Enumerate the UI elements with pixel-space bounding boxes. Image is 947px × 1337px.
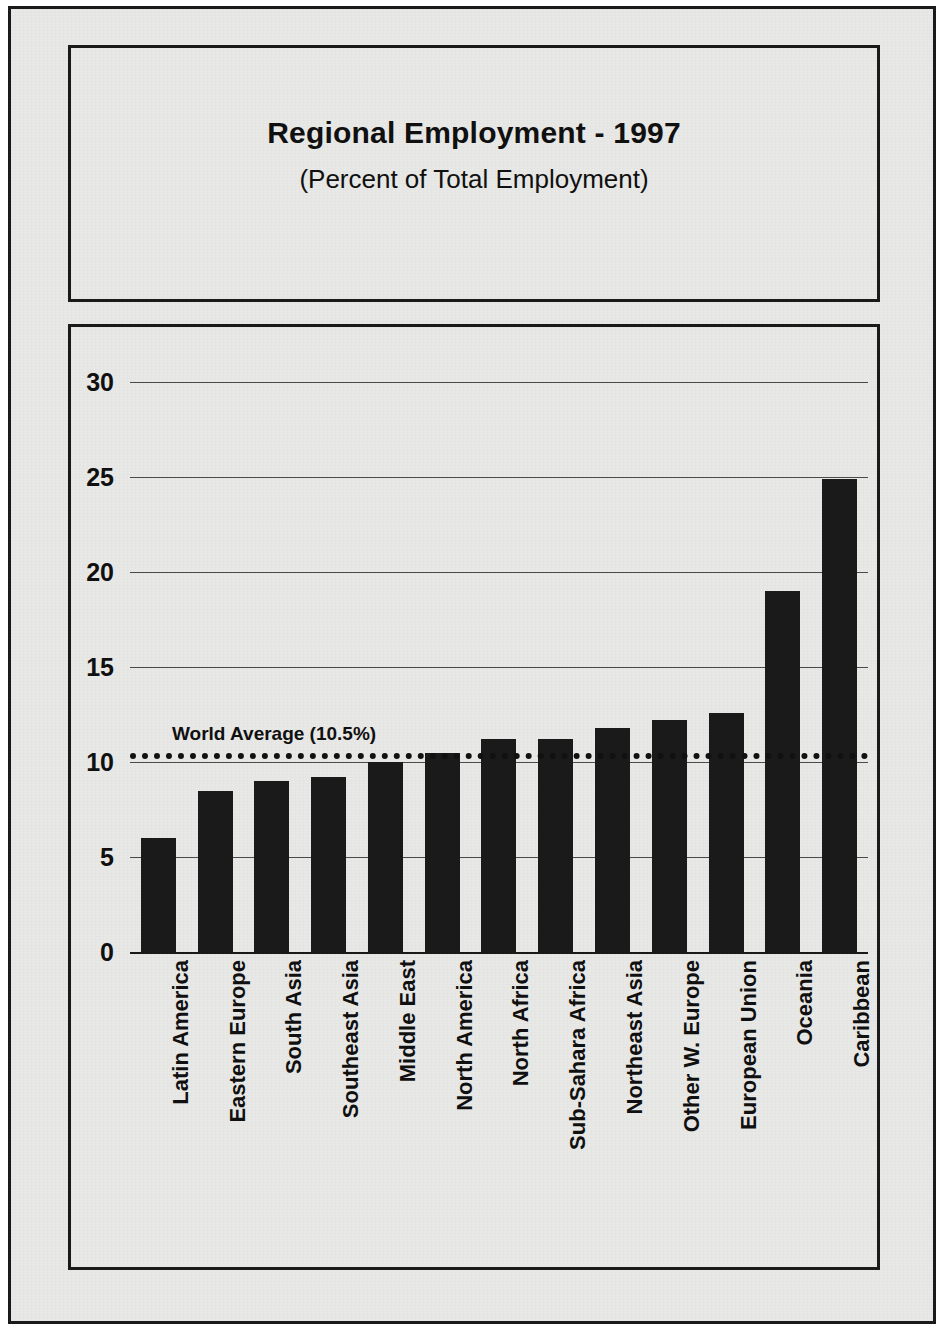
- bar: [595, 728, 630, 952]
- page-subtitle: (Percent of Total Employment): [299, 165, 648, 194]
- category-label: Sub-Sahara Africa: [565, 960, 591, 1150]
- category-label: Middle East: [395, 960, 421, 1082]
- category-label: Northeast Asia: [622, 960, 648, 1114]
- chart-page: Regional Employment - 1997 (Percent of T…: [0, 0, 947, 1337]
- bar: [765, 591, 800, 952]
- y-axis-tick-label: 30: [86, 368, 114, 397]
- category-label: South Asia: [281, 960, 307, 1074]
- bar: [254, 781, 289, 952]
- category-label: Oceania: [792, 960, 818, 1046]
- bar: [141, 838, 176, 952]
- category-label: North America: [452, 960, 478, 1111]
- category-label: Eastern Europe: [225, 960, 251, 1123]
- bar: [481, 739, 516, 952]
- bar: [425, 753, 460, 953]
- bar: [822, 479, 857, 952]
- bar-series: [130, 382, 868, 952]
- page-title: Regional Employment - 1997: [267, 116, 681, 149]
- bar: [709, 713, 744, 952]
- category-label: European Union: [736, 960, 762, 1130]
- y-axis-tick-label: 5: [100, 843, 114, 872]
- bar: [198, 791, 233, 953]
- world-average-label: World Average (10.5%): [172, 723, 376, 745]
- category-label: Caribbean: [849, 960, 875, 1068]
- axis-baseline: [130, 952, 868, 954]
- category-label: Other W. Europe: [679, 960, 705, 1132]
- world-average-line: [130, 753, 868, 759]
- y-axis-tick-label: 10: [86, 748, 114, 777]
- plot-area: 051015202530 World Average (10.5%): [130, 382, 868, 952]
- title-panel: Regional Employment - 1997 (Percent of T…: [68, 45, 880, 302]
- bar: [368, 762, 403, 952]
- category-label: Latin America: [168, 960, 194, 1105]
- y-axis-tick-label: 15: [86, 653, 114, 682]
- category-label: North Africa: [508, 960, 534, 1086]
- chart-panel: 051015202530 World Average (10.5%) Latin…: [68, 324, 880, 1270]
- y-axis-tick-label: 20: [86, 558, 114, 587]
- category-label: Southeast Asia: [338, 960, 364, 1118]
- bar: [311, 777, 346, 952]
- y-axis-tick-label: 25: [86, 463, 114, 492]
- y-axis-tick-label: 0: [100, 938, 114, 967]
- category-labels: Latin AmericaEastern EuropeSouth AsiaSou…: [130, 960, 868, 1240]
- bar: [538, 739, 573, 952]
